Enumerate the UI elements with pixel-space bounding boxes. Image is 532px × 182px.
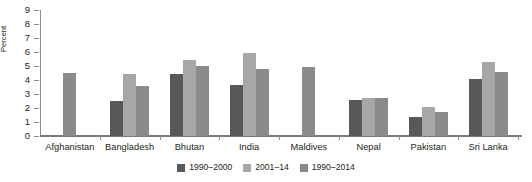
x-axis-tick — [399, 135, 400, 140]
bar-bhutan-series-2 — [183, 60, 196, 136]
x-axis-tick — [279, 135, 280, 140]
chart-legend: 1990–20002001–141990–2014 — [0, 163, 532, 172]
y-axis-tick-label: 8 — [0, 19, 30, 29]
bar-pakistan-series-1 — [409, 117, 422, 136]
bar-chart-figure: Percent 0123456789 AfghanistanBangladesh… — [0, 0, 532, 182]
bar-bhutan-series-3 — [196, 66, 209, 136]
bar-group — [458, 10, 518, 136]
x-axis-label-pakistan: Pakistan — [399, 142, 459, 153]
bar-pakistan-series-2 — [422, 107, 435, 136]
x-axis-label-bhutan: Bhutan — [160, 142, 220, 153]
y-axis-tick — [34, 66, 39, 67]
bar-sri-lanka-series-3 — [495, 72, 508, 136]
y-axis-tick-label: 0 — [0, 131, 30, 141]
y-axis-tick-label: 5 — [0, 61, 30, 71]
bar-bangladesh-series-2 — [123, 74, 136, 136]
y-axis-tick — [34, 10, 39, 11]
bar-pakistan-series-3 — [435, 112, 448, 136]
x-axis-tick — [458, 135, 459, 140]
bar-group — [279, 10, 339, 136]
legend-swatch-icon — [177, 164, 185, 172]
x-axis-tick — [100, 135, 101, 140]
bar-group — [160, 10, 220, 136]
y-axis-tick — [34, 136, 39, 137]
legend-label: 1990–2000 — [189, 163, 232, 172]
y-axis-tick — [34, 52, 39, 53]
x-axis-tick — [518, 135, 519, 140]
y-axis-tick-label: 4 — [0, 75, 30, 85]
y-axis-tick-label: 7 — [0, 33, 30, 43]
y-axis-tick-label: 9 — [0, 5, 30, 15]
plot-area — [40, 10, 518, 136]
x-axis-label-afghanistan: Afghanistan — [40, 142, 100, 153]
legend-label: 1990–2014 — [312, 163, 355, 172]
x-axis-label-maldives: Maldives — [279, 142, 339, 153]
legend-swatch-icon — [300, 164, 308, 172]
bar-bhutan-series-1 — [170, 74, 183, 136]
legend-item-3[interactable]: 1990–2014 — [300, 163, 355, 172]
x-axis-label-nepal: Nepal — [339, 142, 399, 153]
y-axis-tick — [34, 24, 39, 25]
y-axis-tick — [34, 94, 39, 95]
legend-item-2[interactable]: 2001–14 — [243, 163, 288, 172]
bar-group — [40, 10, 100, 136]
bar-bangladesh-series-1 — [110, 101, 123, 136]
bar-sri-lanka-series-1 — [469, 79, 482, 136]
bar-nepal-series-1 — [349, 100, 362, 136]
bar-afghanistan-series-3 — [63, 73, 76, 136]
x-axis-tick — [219, 135, 220, 140]
y-axis-tick — [34, 122, 39, 123]
bar-nepal-series-3 — [375, 98, 388, 136]
y-axis-tick-label: 2 — [0, 103, 30, 113]
y-axis-tick — [34, 108, 39, 109]
x-axis-label-sri-lanka: Sri Lanka — [458, 142, 518, 153]
y-axis-tick — [34, 38, 39, 39]
bar-group — [100, 10, 160, 136]
y-axis-tick-label: 1 — [0, 117, 30, 127]
legend-item-1[interactable]: 1990–2000 — [177, 163, 232, 172]
bar-india-series-2 — [243, 53, 256, 136]
bar-sri-lanka-series-2 — [482, 62, 495, 136]
y-axis-tick-label: 6 — [0, 47, 30, 57]
x-axis-tick — [339, 135, 340, 140]
bar-group — [399, 10, 459, 136]
legend-swatch-icon — [243, 164, 251, 172]
bar-bangladesh-series-3 — [136, 86, 149, 136]
bar-india-series-3 — [256, 69, 269, 136]
bar-india-series-1 — [230, 85, 243, 136]
y-axis-tick-label: 3 — [0, 89, 30, 99]
x-axis-label-india: India — [219, 142, 279, 153]
x-axis-tick — [160, 135, 161, 140]
bar-group — [339, 10, 399, 136]
legend-label: 2001–14 — [255, 163, 288, 172]
y-axis-tick — [34, 80, 39, 81]
bar-nepal-series-2 — [362, 98, 375, 137]
bar-maldives-series-3 — [302, 67, 315, 136]
x-axis-label-bangladesh: Bangladesh — [100, 142, 160, 153]
chart-title-cropped — [0, 0, 532, 6]
bar-group — [219, 10, 279, 136]
